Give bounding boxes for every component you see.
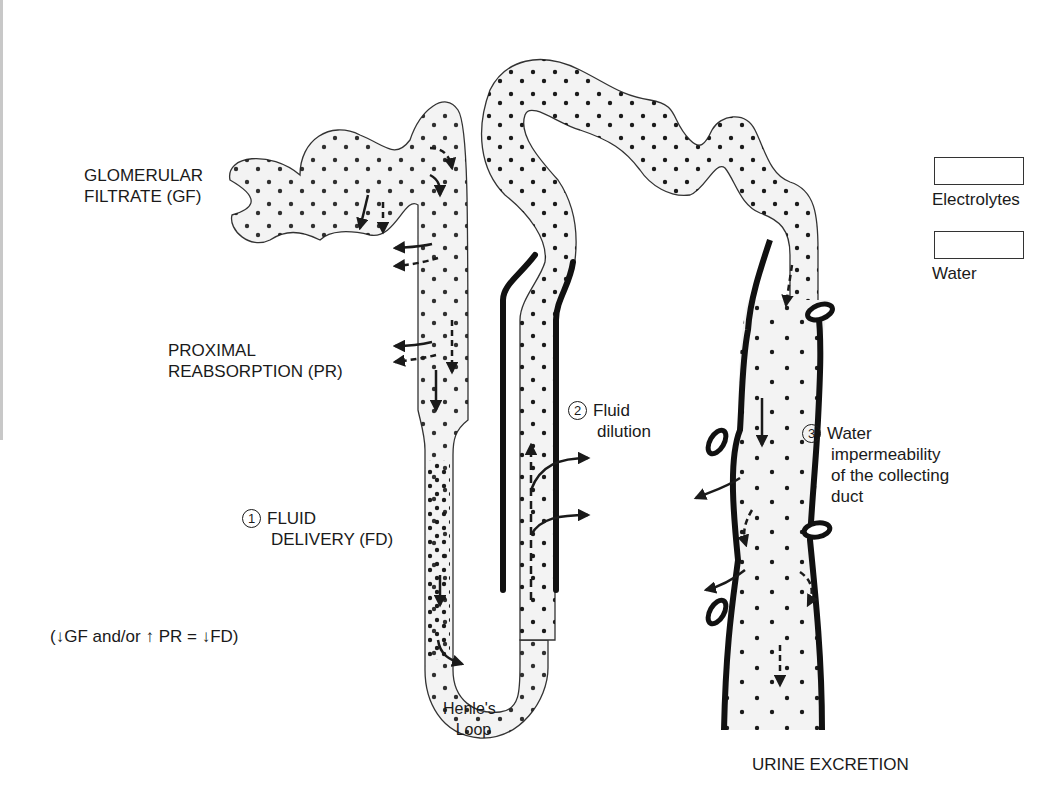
fluid-delivery-equation: (↓GF and/or ↑ PR = ↓FD) (50, 626, 238, 647)
legend-electrolytes-box (934, 157, 1024, 185)
proximal-reabsorption-label: PROXIMAL REABSORPTION (PR) (168, 340, 343, 382)
label-line: PROXIMAL (168, 340, 343, 361)
legend-electrolytes-label: Electrolytes (932, 190, 1020, 210)
label-line: GLOMERULAR (84, 165, 203, 186)
urine-excretion-label: URINE EXCRETION (752, 754, 909, 775)
water-impermeability-label: 3Water impermeability of the collecting … (802, 423, 949, 507)
label-line: FILTRATE (GF) (84, 186, 203, 207)
nephron-diagram (0, 0, 1050, 789)
label-line: Loop (443, 719, 496, 740)
label-line: REABSORPTION (PR) (168, 361, 343, 382)
henles-loop-label: Henle's Loop (443, 698, 496, 740)
step-number-badge: 2 (568, 401, 587, 420)
fluid-dilution-label: 2Fluid dilution (568, 400, 651, 442)
glomerular-filtrate-label: GLOMERULAR FILTRATE (GF) (84, 165, 203, 207)
fluid-delivery-label: 1FLUID DELIVERY (FD) (242, 508, 393, 550)
step-number-badge: 3 (802, 424, 821, 443)
label-line: DELIVERY (FD) (242, 529, 393, 550)
label-line: impermeability (802, 444, 949, 465)
legend-water-label: Water (932, 264, 977, 284)
label-line: FLUID (267, 509, 316, 528)
label-line: Fluid (593, 401, 630, 420)
label-line: Henle's (443, 698, 496, 719)
label-line: of the collecting (802, 465, 949, 486)
label-line: Water (827, 424, 872, 443)
label-line: dilution (568, 421, 651, 442)
legend-water-box (934, 231, 1024, 259)
step-number-badge: 1 (242, 509, 261, 528)
label-line: duct (802, 486, 949, 507)
